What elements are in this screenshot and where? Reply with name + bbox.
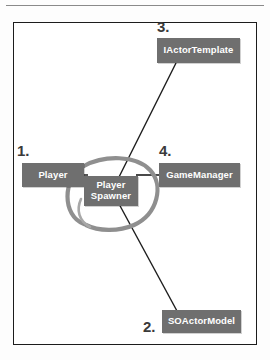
diagram-page: Player Player Spawner GameManager IActor… <box>0 0 270 360</box>
node-player-spawner-label: Player Spawner <box>85 180 137 201</box>
node-player-spawner-label-line2: Spawner <box>88 191 134 202</box>
callout-number-3: 3. <box>157 18 170 35</box>
node-gamemanager-label: GameManager <box>163 170 236 181</box>
node-player[interactable]: Player <box>22 163 84 187</box>
node-gamemanager[interactable]: GameManager <box>159 163 240 187</box>
callout-number-4: 4. <box>159 142 172 159</box>
node-iactortemplate-label: IActorTemplate <box>161 45 237 56</box>
node-player-label: Player <box>35 170 70 181</box>
callout-number-2: 2. <box>143 318 156 335</box>
connector-spawner-to-soactormodel <box>112 191 177 311</box>
node-soactormodel[interactable]: SOActorModel <box>162 310 241 333</box>
node-soactormodel-label: SOActorModel <box>165 316 238 327</box>
node-iactortemplate[interactable]: IActorTemplate <box>157 38 240 63</box>
node-player-spawner[interactable]: Player Spawner <box>84 176 138 206</box>
callout-number-1: 1. <box>17 142 30 159</box>
